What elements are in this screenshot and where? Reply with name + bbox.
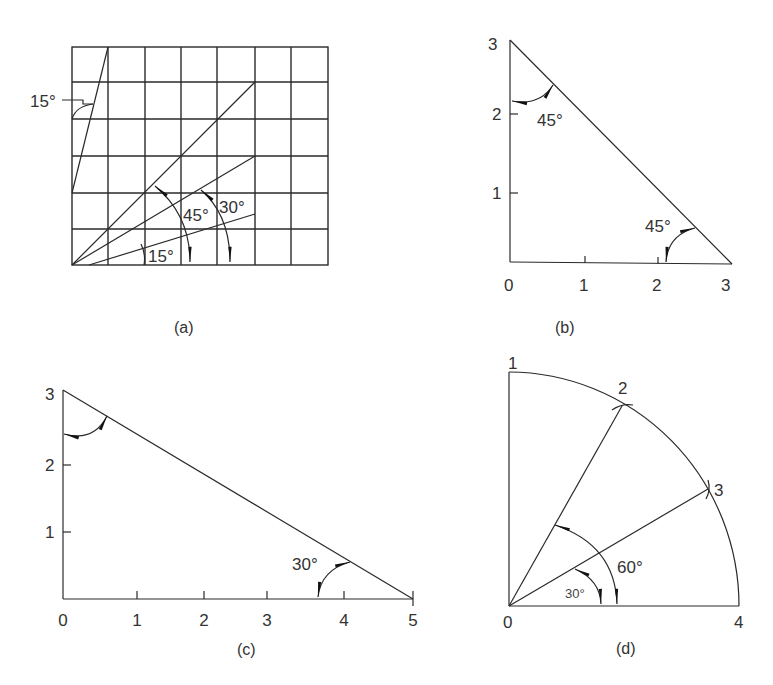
x-tick-label: 2	[652, 276, 661, 295]
panel-d: 0 1 2 3 4 60° 30° (d)	[503, 354, 743, 657]
hypotenuse	[63, 390, 413, 599]
y-tick-label: 2	[45, 456, 54, 475]
point-label: 0	[503, 613, 512, 632]
steep-line	[72, 47, 108, 193]
panel-c: 0 1 2 3 4 5 1 2 3 30° (c)	[45, 385, 418, 658]
y-tick-label: 2	[492, 105, 501, 124]
y-tick-label: 3	[45, 385, 54, 404]
x-tick-label: 1	[132, 611, 141, 630]
x-tick-label: 3	[262, 611, 271, 630]
angle-label: 15°	[30, 92, 56, 111]
x-tick-label: 5	[408, 611, 417, 630]
angle-label: 45°	[537, 111, 563, 130]
point-label: 1	[508, 354, 517, 373]
figure-canvas: 15° 15° 45° 30° (a) 0 1 2 3 1 2 3 45° 45…	[0, 0, 773, 685]
x-tick-label: 1	[579, 276, 588, 295]
radius-60deg	[509, 406, 622, 606]
angle-label: 60°	[617, 558, 643, 577]
panel-a: 15° 15° 45° 30° (a)	[30, 47, 328, 336]
angle-label: 30°	[219, 198, 245, 217]
panel-b: 0 1 2 3 1 2 3 45° 45° (b)	[488, 35, 732, 336]
panel-caption: (a)	[174, 319, 194, 336]
y-tick-label: 1	[45, 523, 54, 542]
panel-caption: (b)	[555, 319, 575, 336]
angle-label: 30°	[565, 586, 585, 601]
angle-arc-30	[318, 562, 350, 597]
angle-label: 15°	[148, 247, 174, 266]
angle-arc-45-top	[512, 85, 553, 102]
y-tick-label: 3	[488, 35, 497, 54]
x-axis	[510, 262, 732, 264]
angle-label: 45°	[645, 217, 671, 236]
leader-line	[62, 100, 93, 104]
angle-arc-top	[64, 416, 107, 436]
x-tick-label: 3	[721, 276, 730, 295]
panel-caption: (c)	[237, 641, 256, 658]
y-tick-label: 1	[492, 184, 501, 203]
x-tick-label: 4	[339, 611, 348, 630]
angle-arc-15-left	[72, 104, 93, 119]
angle-label: 30°	[292, 555, 318, 574]
radius-30deg	[509, 489, 708, 606]
point-label: 4	[734, 613, 743, 632]
point-label: 2	[618, 379, 627, 398]
grid	[72, 47, 328, 265]
point-label: 3	[714, 481, 723, 500]
angle-label: 45°	[183, 206, 209, 225]
x-tick-label: 0	[504, 276, 513, 295]
hypotenuse	[510, 40, 732, 264]
panel-caption: (d)	[616, 640, 636, 657]
angle-arc-15	[141, 244, 145, 265]
x-tick-label: 0	[58, 611, 67, 630]
x-tick-label: 2	[199, 611, 208, 630]
